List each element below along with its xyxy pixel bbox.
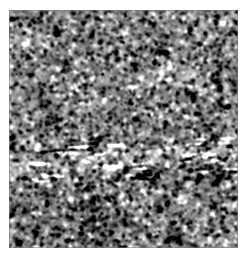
micrograph-figure <box>0 0 247 258</box>
micrograph-image-panel <box>9 10 238 248</box>
micrograph-canvas <box>9 10 238 248</box>
